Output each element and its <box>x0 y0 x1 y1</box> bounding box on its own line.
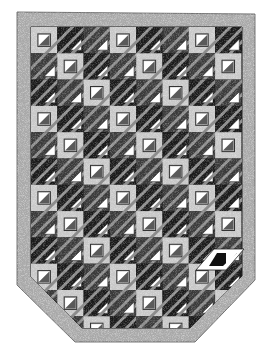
quilt-block <box>136 290 162 316</box>
quilt-block <box>215 53 241 79</box>
quilt-block <box>84 80 110 106</box>
quilt-block <box>189 106 215 132</box>
quilt-block <box>57 211 83 237</box>
quilt-block <box>163 159 189 185</box>
quilt-block <box>136 211 162 237</box>
quilt-block <box>110 27 136 53</box>
quilt-block <box>57 132 83 158</box>
quilt-block <box>110 106 136 132</box>
quilt-block <box>31 185 57 211</box>
quilt-block <box>84 237 110 263</box>
quilt-illustration <box>0 0 271 361</box>
quilt-block <box>215 211 241 237</box>
quilt-block <box>189 185 215 211</box>
quilt-block <box>31 106 57 132</box>
quilt-block <box>57 53 83 79</box>
quilt-block <box>136 53 162 79</box>
quilt-block <box>110 264 136 290</box>
quilt-block <box>163 80 189 106</box>
quilt-block <box>84 159 110 185</box>
quilt-field <box>18 27 259 343</box>
quilt-block <box>110 185 136 211</box>
quilt-block <box>136 132 162 158</box>
quilt-block <box>189 27 215 53</box>
quilt-block <box>215 132 241 158</box>
quilt-block <box>163 237 189 263</box>
quilt-block <box>31 27 57 53</box>
